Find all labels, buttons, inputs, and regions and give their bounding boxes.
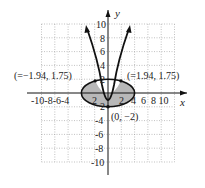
point-left	[94, 79, 97, 82]
y-axis-arrow-icon	[106, 10, 111, 17]
x-ticks-negative: -10-8-6-4	[31, 95, 69, 106]
point-right	[119, 79, 122, 82]
y-tick-8: 8	[100, 33, 105, 44]
y-tick-4: 4	[100, 60, 105, 71]
y-tick-10: 10	[96, 19, 106, 30]
x-axis-arrow-icon	[180, 91, 187, 96]
label-vertex-point: (0, −2)	[111, 111, 138, 123]
y-tick-m4: -4	[95, 115, 103, 126]
y-tick-m8: -8	[95, 143, 103, 154]
graph: y x 10 8 6 4 2 2 -4 -6 -8 -10 -10-8-6-4 …	[0, 0, 205, 188]
y-tick-6: 6	[100, 46, 105, 57]
y-tick-m6: -6	[95, 129, 103, 140]
x-tick-m2: 2	[92, 95, 97, 106]
x-axis-label: x	[179, 96, 185, 108]
y-axis-label: y	[114, 7, 120, 19]
parabola-right-arrow-icon	[126, 25, 132, 33]
label-left-point: (=−1.94, 1.75)	[14, 70, 72, 82]
x-tick-p2: 2	[119, 95, 124, 106]
label-right-point: (=1.94, 1.75)	[127, 70, 179, 82]
y-tick-m10: -10	[91, 157, 104, 168]
point-vertex	[106, 105, 110, 109]
y-tick-m2: 2	[100, 101, 105, 112]
parabola-left-arrow-icon	[85, 25, 91, 33]
y-tick-2: 2	[100, 74, 105, 85]
x-ticks-positive: 4 6 8 10	[131, 95, 169, 106]
